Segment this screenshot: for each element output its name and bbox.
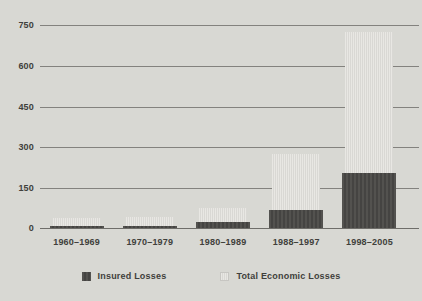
losses-bar-chart: 7506004503001500 1960–19691970–19791980–… bbox=[0, 0, 422, 301]
legend-label: Insured Losses bbox=[98, 271, 167, 281]
y-axis-label-600: 600 bbox=[2, 62, 34, 71]
y-axis-label-300: 300 bbox=[2, 143, 34, 152]
x-axis-labels: 1960–19691970–19791980–19891988–19971998… bbox=[40, 237, 406, 247]
bar-group-1960-1969 bbox=[40, 25, 113, 229]
legend-swatch-total bbox=[220, 272, 229, 281]
x-axis-label-1998-2005: 1998–2005 bbox=[333, 237, 406, 247]
gridline-750 bbox=[40, 25, 419, 26]
bar-group-1998-2005 bbox=[333, 25, 406, 229]
legend-item-total-losses: Total Economic Losses bbox=[220, 271, 340, 281]
legend: Insured LossesTotal Economic Losses bbox=[0, 271, 422, 281]
legend-label: Total Economic Losses bbox=[236, 271, 340, 281]
x-axis-label-1960-1969: 1960–1969 bbox=[40, 237, 113, 247]
bar-group-1980-1989 bbox=[186, 25, 259, 229]
bars-container bbox=[40, 25, 406, 229]
bar-group-1988-1997 bbox=[260, 25, 333, 229]
legend-swatch-insured bbox=[82, 272, 91, 281]
x-axis-label-1988-1997: 1988–1997 bbox=[260, 237, 333, 247]
y-axis-label-150: 150 bbox=[2, 184, 34, 193]
legend-item-insured-losses: Insured Losses bbox=[82, 271, 167, 281]
y-axis-label-0: 0 bbox=[2, 224, 34, 233]
x-axis-label-1970-1979: 1970–1979 bbox=[113, 237, 186, 247]
insured-losses-bar bbox=[342, 173, 396, 229]
bar-group-1970-1979 bbox=[113, 25, 186, 229]
y-axis-label-450: 450 bbox=[2, 103, 34, 112]
gridline-0 bbox=[40, 228, 419, 229]
y-axis-label-750: 750 bbox=[2, 21, 34, 30]
plot-area: 7506004503001500 bbox=[40, 25, 420, 229]
x-axis-label-1980-1989: 1980–1989 bbox=[186, 237, 259, 247]
insured-losses-bar bbox=[269, 210, 323, 229]
